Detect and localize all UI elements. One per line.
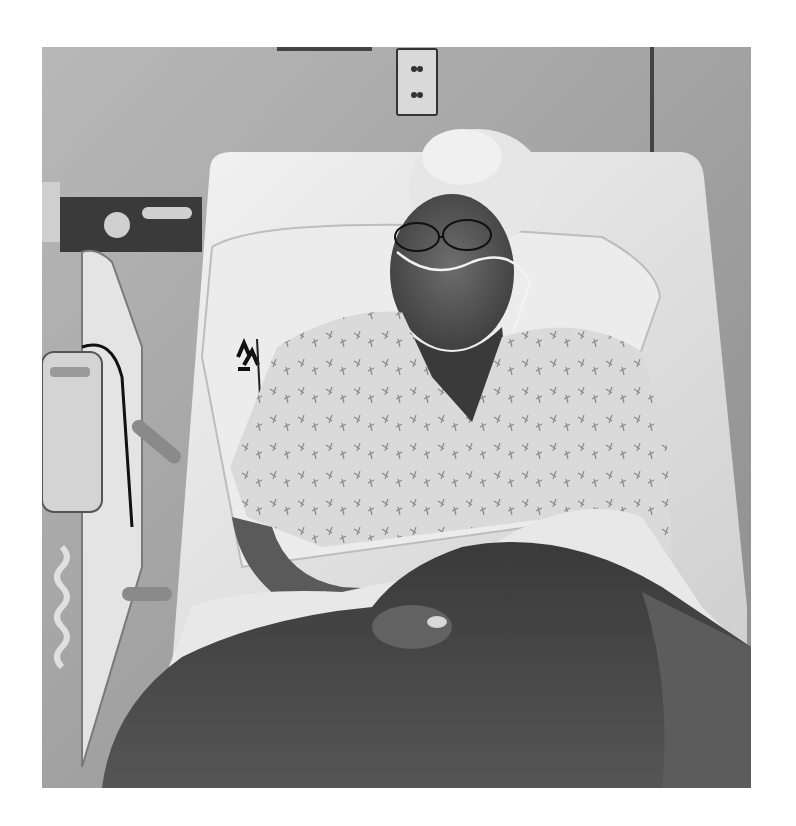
wall-outlet (397, 49, 437, 115)
photograph: Elderly woman with curly white hair and … (42, 47, 751, 788)
